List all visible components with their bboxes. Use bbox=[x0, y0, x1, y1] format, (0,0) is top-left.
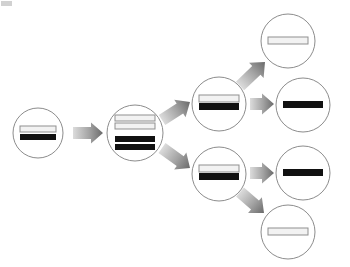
arrow-gen3-upper-to-gen4-second bbox=[250, 94, 274, 115]
node-generation-3-lower bbox=[192, 147, 246, 201]
node-generation-2-strand-1-light bbox=[115, 115, 155, 121]
diagram-canvas bbox=[0, 0, 350, 267]
arrow-gen2-to-gen3-upper-shape bbox=[156, 93, 195, 129]
lineage-diagram bbox=[0, 0, 350, 267]
node-generation-3-lower-strand-2-dark bbox=[199, 173, 239, 180]
node-generation-4-second bbox=[276, 78, 330, 132]
node-generation-4-first-strand-1-light bbox=[268, 37, 308, 44]
node-generation-3-upper-strand-2-dark bbox=[199, 103, 239, 110]
node-generation-2-outline bbox=[107, 105, 163, 161]
node-generation-4-second-strand-1-dark bbox=[283, 101, 323, 108]
node-generation-2 bbox=[107, 105, 163, 161]
node-generation-1 bbox=[13, 108, 63, 158]
node-generation-3-upper bbox=[192, 77, 246, 131]
arrow-gen1-to-gen2-shape bbox=[73, 123, 103, 144]
nodes-layer bbox=[13, 14, 330, 259]
node-generation-4-fourth-strand-1-light bbox=[268, 228, 308, 235]
node-generation-2-strand-4-dark bbox=[115, 144, 155, 150]
arrows-layer bbox=[73, 54, 274, 220]
arrow-gen1-to-gen2 bbox=[73, 123, 103, 144]
arrow-gen3-lower-to-gen4-third-shape bbox=[250, 163, 274, 184]
node-generation-3-upper-strand-1-light bbox=[199, 95, 239, 102]
arrow-gen2-to-gen3-lower-shape bbox=[156, 139, 196, 176]
node-generation-3-lower-strand-1-light bbox=[199, 165, 239, 172]
node-generation-4-third-strand-1-dark bbox=[283, 169, 323, 176]
node-generation-4-first bbox=[261, 14, 315, 68]
node-generation-1-strand-1-light bbox=[20, 126, 56, 132]
node-generation-4-third bbox=[276, 146, 330, 200]
node-generation-1-strand-2-dark bbox=[20, 134, 56, 140]
node-generation-1-outline bbox=[13, 108, 63, 158]
arrow-gen2-to-gen3-lower bbox=[156, 139, 196, 176]
node-generation-4-fourth bbox=[261, 205, 315, 259]
arrow-gen3-lower-to-gen4-third bbox=[250, 163, 274, 184]
node-generation-2-strand-3-dark bbox=[115, 136, 155, 142]
arrow-gen3-upper-to-gen4-second-shape bbox=[250, 94, 274, 115]
node-generation-2-strand-2-light bbox=[115, 123, 155, 129]
arrow-gen2-to-gen3-upper bbox=[156, 93, 195, 129]
